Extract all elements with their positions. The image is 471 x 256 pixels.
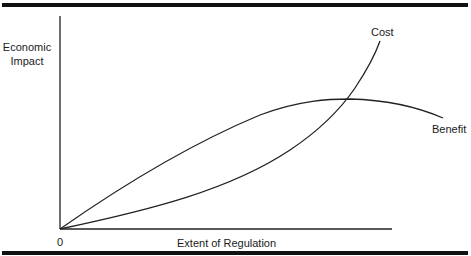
origin-label: 0 [57, 235, 63, 249]
y-axis-label-line2: Impact [2, 54, 52, 68]
y-axis-label-line1: Economic [2, 40, 52, 54]
benefit-curve [60, 99, 443, 229]
y-axis-label: Economic Impact [2, 40, 52, 68]
cost-curve [60, 41, 380, 229]
chart-plot-area [0, 0, 471, 256]
bottom-border-bar [2, 251, 468, 255]
cost-series-label: Cost [371, 25, 394, 39]
benefit-series-label: Benefit [432, 122, 466, 136]
x-axis-label: Extent of Regulation [177, 236, 276, 250]
